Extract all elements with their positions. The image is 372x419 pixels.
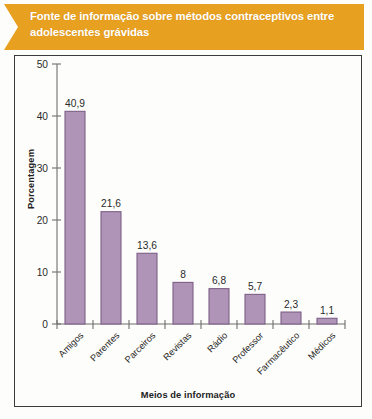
x-category-label: Médicos xyxy=(306,330,338,362)
bar xyxy=(281,312,301,324)
bar-value-label: 1,1 xyxy=(320,305,334,316)
bar-value-label: 8 xyxy=(180,269,186,280)
x-category-label: Amigos xyxy=(57,330,86,359)
x-category-label: Professor xyxy=(231,330,266,365)
title-banner: Fonte de informação sobre métodos contra… xyxy=(4,4,364,50)
bar xyxy=(245,294,265,324)
bar-value-label: 6,8 xyxy=(212,275,226,286)
bar-value-label: 2,3 xyxy=(284,299,298,310)
y-axis-title: Porcentagem xyxy=(26,119,36,239)
y-tick-label: 10 xyxy=(37,267,49,278)
x-axis-title: Meios de informação xyxy=(15,390,361,400)
y-tick-label: 0 xyxy=(42,319,48,330)
bar-value-label: 5,7 xyxy=(248,281,262,292)
bar xyxy=(101,212,121,324)
bar xyxy=(317,318,337,324)
bar xyxy=(137,253,157,324)
y-tick-label: 20 xyxy=(37,215,49,226)
bar-chart-svg: 0102030405040,9Amigos21,6Parentes13,6Par… xyxy=(15,56,359,404)
x-category-label: Parentes xyxy=(88,330,121,363)
y-tick-label: 40 xyxy=(37,111,49,122)
x-category-label: Rádio xyxy=(205,330,229,354)
x-category-label: Revistas xyxy=(161,330,193,362)
bar xyxy=(209,289,229,324)
bar-value-label: 21,6 xyxy=(101,198,121,209)
chart-plot-frame: 0102030405040,9Amigos21,6Parentes13,6Par… xyxy=(14,55,362,407)
bar xyxy=(173,282,193,324)
chart-figure: Fonte de informação sobre métodos contra… xyxy=(0,0,372,419)
y-tick-label: 50 xyxy=(37,59,49,70)
chart-title: Fonte de informação sobre métodos contra… xyxy=(30,9,356,40)
bar xyxy=(65,111,85,324)
x-category-label: Parceiros xyxy=(123,330,158,365)
bar-value-label: 40,9 xyxy=(65,98,85,109)
bar-value-label: 13,6 xyxy=(137,240,157,251)
y-tick-label: 30 xyxy=(37,163,49,174)
